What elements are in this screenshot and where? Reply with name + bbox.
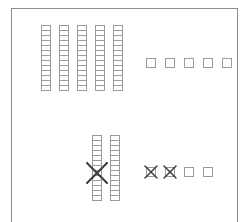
unit-cell (113, 85, 123, 91)
unit-cell (59, 85, 69, 91)
diagram-canvas: Base-ten blocks subtraction diagram (0, 0, 248, 222)
unit-cell (41, 85, 51, 91)
unit-square (184, 167, 194, 177)
unit-cell (110, 195, 120, 201)
unit-square (165, 58, 175, 68)
figure-title: Base-ten blocks subtraction diagram (0, 0, 1, 1)
tens-rod (41, 25, 51, 91)
unit-square (184, 58, 194, 68)
tens-rod (59, 25, 69, 91)
unit-square (146, 58, 156, 68)
unit-cell (77, 85, 87, 91)
tens-rod (77, 25, 87, 91)
tens-rod (113, 25, 123, 91)
unit-square (146, 167, 156, 177)
unit-square (222, 58, 232, 68)
tens-rod (110, 135, 120, 201)
unit-square (165, 167, 175, 177)
tens-rod (95, 25, 105, 91)
unit-square (203, 58, 213, 68)
tens-rod (92, 135, 102, 201)
unit-square (203, 167, 213, 177)
unit-cell (92, 195, 102, 201)
unit-cell (95, 85, 105, 91)
